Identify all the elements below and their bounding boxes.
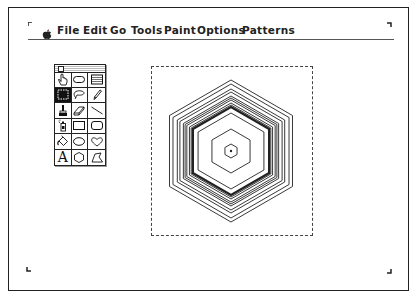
tool-field[interactable] bbox=[88, 72, 105, 88]
hand-icon bbox=[56, 73, 70, 86]
line-icon bbox=[90, 104, 104, 117]
menu-patterns[interactable]: Patterns bbox=[242, 22, 295, 39]
pencil-icon bbox=[90, 88, 104, 101]
tool-browse[interactable] bbox=[55, 72, 72, 88]
menu-paint[interactable]: Paint bbox=[164, 22, 196, 39]
tool-brush[interactable] bbox=[55, 103, 72, 119]
polygon-icon bbox=[90, 151, 104, 164]
tool-button[interactable] bbox=[72, 72, 89, 88]
spray-can-icon bbox=[56, 119, 70, 132]
field-lines-icon bbox=[90, 73, 104, 86]
brush-icon bbox=[56, 104, 70, 117]
lasso-icon bbox=[72, 88, 86, 101]
menu-bar: File Edit Go Tools Paint Options Pattern… bbox=[28, 22, 394, 40]
tool-palette: A bbox=[54, 64, 106, 166]
menu-edit[interactable]: Edit bbox=[83, 22, 108, 39]
tool-round-rect[interactable] bbox=[88, 119, 105, 135]
menu-options[interactable]: Options bbox=[197, 22, 245, 39]
hexagon-icon bbox=[72, 151, 86, 164]
tool-text[interactable]: A bbox=[55, 150, 72, 166]
tool-regular-polygon[interactable] bbox=[72, 150, 89, 166]
menu-tools[interactable]: Tools bbox=[131, 22, 163, 39]
tool-pencil[interactable] bbox=[88, 88, 105, 104]
menu-go[interactable]: Go bbox=[110, 22, 126, 39]
apple-icon[interactable] bbox=[42, 25, 52, 36]
paint-bucket-icon bbox=[56, 135, 70, 148]
marquee-select-icon bbox=[56, 88, 70, 101]
tool-polygon[interactable] bbox=[88, 150, 105, 166]
tool-lasso[interactable] bbox=[72, 88, 89, 104]
tool-oval[interactable] bbox=[72, 134, 89, 150]
concentric-hexagon-drawing bbox=[151, 66, 313, 236]
rounded-rect-button-icon bbox=[72, 73, 86, 86]
tool-line[interactable] bbox=[88, 103, 105, 119]
corner-mark-bottom-left bbox=[26, 266, 32, 272]
tool-eraser[interactable] bbox=[72, 103, 89, 119]
tool-spray[interactable] bbox=[55, 119, 72, 135]
tool-select[interactable] bbox=[55, 88, 72, 104]
menu-file[interactable]: File bbox=[57, 22, 80, 39]
tool-bucket[interactable] bbox=[55, 134, 72, 150]
rounded-rectangle-icon bbox=[90, 119, 104, 132]
tool-rectangle[interactable] bbox=[72, 119, 89, 135]
tool-curve[interactable] bbox=[88, 134, 105, 150]
center-dot bbox=[230, 150, 232, 152]
oval-icon bbox=[72, 135, 86, 148]
tool-grid: A bbox=[55, 72, 105, 165]
rectangle-icon bbox=[72, 119, 86, 132]
eraser-icon bbox=[72, 104, 86, 117]
corner-mark-bottom-right bbox=[386, 268, 392, 274]
text-icon: A bbox=[58, 150, 68, 164]
curve-icon bbox=[90, 135, 104, 148]
